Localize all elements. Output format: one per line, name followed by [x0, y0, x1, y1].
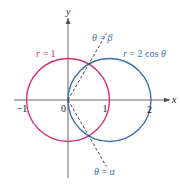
ray-theta-beta: [68, 34, 106, 100]
y-axis-arrow-icon: [66, 18, 71, 24]
x-tick-label: 1: [103, 103, 108, 114]
label-theta-symbol: θ: [161, 48, 166, 59]
label-r-equals-1: r = 1: [36, 48, 56, 59]
label-rest: = 1: [40, 48, 56, 59]
label-theta-equals-alpha: θ = α: [94, 166, 116, 177]
label-eq: =: [97, 32, 108, 43]
label-alpha-symbol: α: [110, 166, 116, 177]
label-rest: = 2 cos: [127, 48, 161, 59]
label-r-equals-2cos-theta: r = 2 cos θ: [123, 48, 166, 59]
x-tick-label: 2: [147, 104, 152, 115]
label-beta-symbol: β: [107, 32, 113, 43]
ray-theta-alpha: [68, 100, 106, 166]
label-theta-equals-beta: θ = β: [92, 32, 113, 43]
label-eq: =: [99, 166, 110, 177]
polar-region-figure: x y −1 0 1 2 r = 1 r = 2 cos θ θ = β θ =…: [0, 0, 180, 187]
y-axis-label: y: [65, 6, 71, 17]
x-tick-label: 0: [61, 103, 66, 114]
x-axis-label: x: [171, 94, 177, 105]
x-tick-label: −1: [17, 103, 28, 114]
x-axis-arrow-icon: [164, 98, 170, 103]
